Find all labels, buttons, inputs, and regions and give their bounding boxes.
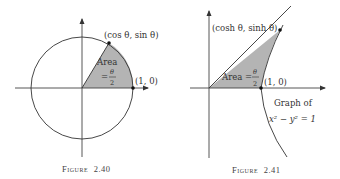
point-one-zero xyxy=(131,86,135,90)
label-cosh-sinh: (cosh θ, sinh θ) xyxy=(212,23,277,33)
label-area-eq: = xyxy=(101,72,108,82)
figure-2-40: (cos θ, sin θ) (1, 0) Area = θ 2 Figure … xyxy=(15,19,158,174)
caption-prefix: Figure xyxy=(232,165,258,175)
label-area-den: 2 xyxy=(253,80,257,88)
label-area-num: θ xyxy=(110,68,114,76)
caption-number: 2.40 xyxy=(94,164,111,174)
point-cosh-sinh xyxy=(278,28,282,32)
caption-number: 2.41 xyxy=(264,165,281,175)
caption-prefix: Figure xyxy=(62,164,88,174)
label-one-zero: (1, 0) xyxy=(135,76,158,86)
label-area-num: θ xyxy=(253,68,257,76)
label-equation: x² − y² = 1 xyxy=(269,114,316,124)
label-area-den: 2 xyxy=(110,79,114,87)
figure-2-41: (cosh θ, sinh θ) Area = θ 2 (1, 0) Graph… xyxy=(190,6,325,175)
label-area: Area = xyxy=(221,72,252,82)
label-graph-of: Graph of xyxy=(274,98,313,108)
figures-canvas: (cos θ, sin θ) (1, 0) Area = θ 2 Figure … xyxy=(0,0,340,179)
caption-2-40: Figure 2.40 xyxy=(62,164,111,174)
label-one-zero: (1, 0) xyxy=(264,77,287,87)
caption-2-41: Figure 2.41 xyxy=(232,165,281,175)
label-cos-sin: (cos θ, sin θ) xyxy=(104,30,158,40)
label-area: Area xyxy=(96,57,117,67)
point-one-zero xyxy=(259,86,263,90)
point-cos-sin xyxy=(107,41,111,45)
